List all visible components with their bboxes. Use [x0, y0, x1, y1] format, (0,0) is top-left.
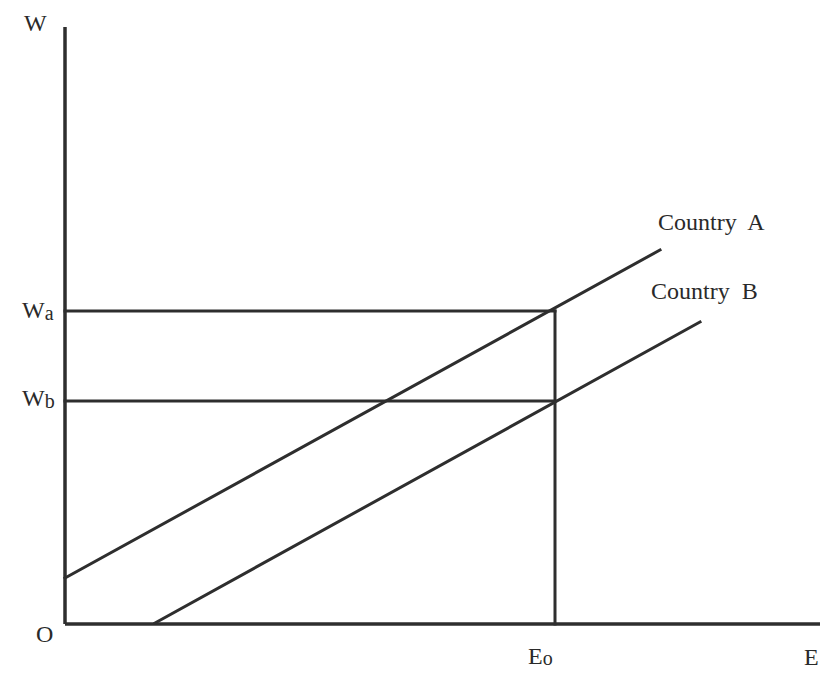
country-b-line [155, 322, 700, 623]
origin-label: O [36, 621, 53, 647]
country-a-label: Country A [658, 209, 765, 235]
x-axis-label: E [804, 644, 819, 670]
wb-label: Wb [22, 385, 55, 412]
wa-label: Wa [22, 297, 54, 324]
eo-label: Eo [528, 643, 553, 669]
labor-market-diagram: W E O Wa Wb Eo Country A Country B [0, 0, 837, 680]
y-axis-label: W [24, 10, 47, 36]
country-a-line [65, 250, 660, 578]
country-b-label: Country B [651, 278, 758, 304]
